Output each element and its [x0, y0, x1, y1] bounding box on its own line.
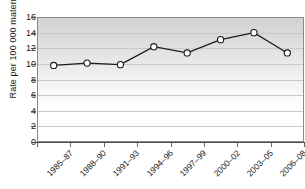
data-point-marker — [284, 50, 290, 56]
x-tick-mark — [137, 143, 138, 147]
data-point-marker — [51, 62, 57, 68]
y-tick-mark — [31, 80, 36, 81]
x-tick-mark — [37, 143, 38, 147]
x-tick-mark — [171, 143, 172, 147]
y-tick-mark — [31, 17, 36, 18]
y-tick-mark — [31, 95, 36, 96]
data-point-marker — [151, 44, 157, 50]
y-tick-mark — [31, 142, 36, 143]
data-point-marker — [184, 50, 190, 56]
series-markers — [51, 30, 291, 69]
x-tick-mark — [271, 143, 272, 147]
x-tick-mark — [237, 143, 238, 147]
y-tick-mark — [31, 48, 36, 49]
data-point-marker — [217, 37, 223, 43]
x-tick-mark — [70, 143, 71, 147]
data-point-marker — [251, 30, 257, 36]
y-tick-mark — [31, 33, 36, 34]
line-chart: Rate per 100 000 maternities 02468101214… — [0, 0, 305, 189]
x-tick-mark — [304, 143, 305, 147]
x-tick-mark — [204, 143, 205, 147]
x-tick-mark — [104, 143, 105, 147]
y-tick-mark — [31, 111, 36, 112]
y-tick-mark — [31, 126, 36, 127]
data-point-marker — [117, 62, 123, 68]
data-point-marker — [84, 60, 90, 66]
y-tick-mark — [31, 64, 36, 65]
